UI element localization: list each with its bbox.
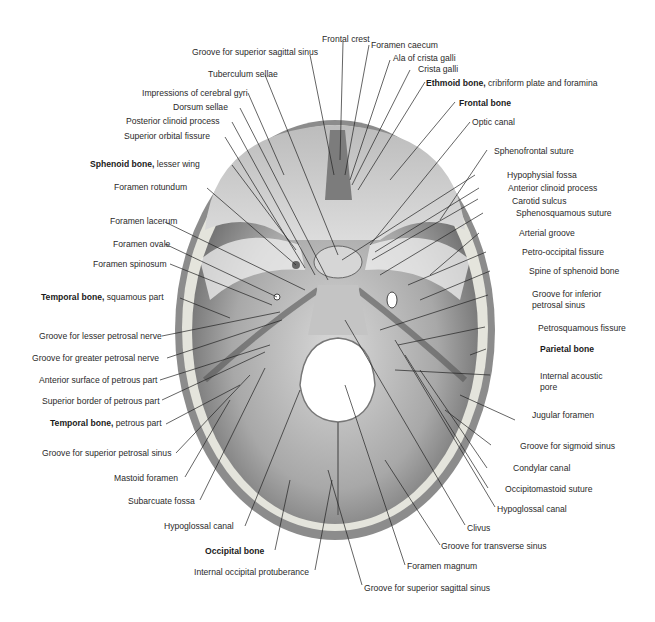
label-groove-inferior-petrosal: Groove for inferior	[532, 289, 601, 299]
label-hypophysial-fossa: Hypophysial fossa	[507, 170, 577, 180]
label-frontal-bone: Frontal bone	[459, 98, 511, 108]
label-ala-crista-galli: Ala of crista galli	[393, 53, 456, 63]
label-subarcuate-fossa: Subarcuate fossa	[128, 496, 195, 506]
label-sphenofrontal-suture: Sphenofrontal suture	[494, 146, 574, 156]
label-internal-acoustic-pore: Internal acoustic	[540, 371, 603, 381]
label-temporal-squamous: Temporal bone, squamous part	[41, 292, 164, 302]
label-groove-superior-petrosal: Groove for superior petrosal sinus	[42, 448, 171, 458]
label-foramen-ovale: Foramen ovale	[113, 239, 170, 249]
internal-acoustic-pore-mark	[387, 292, 397, 308]
label-foramen-magnum: Foramen magnum	[407, 561, 477, 571]
label-foramen-lacerum: Foramen lacerum	[110, 216, 177, 226]
label-petro-occipital-fissure: Petro-occipital fissure	[522, 247, 604, 257]
bold-part: Frontal bone	[459, 98, 511, 108]
label-foramen-rotundum: Foramen rotundum	[114, 182, 187, 192]
clivus	[308, 285, 368, 335]
foramen-magnum-opening	[300, 338, 375, 422]
label-impressions-cerebral-gyri: Impressions of cerebral gyri	[142, 88, 248, 98]
label-dorsum-sellae: Dorsum sellae	[173, 102, 228, 112]
label-text: cribriform plate and foramina	[486, 78, 598, 88]
label-sphenosquamous-suture: Sphenosquamous suture	[516, 208, 612, 218]
label-optic-canal: Optic canal	[472, 117, 515, 127]
label-groove-greater-petrosal: Groove for greater petrosal nerve	[32, 353, 159, 363]
label-groove-superior-sagittal-sinus-bottom: Groove for superior sagittal sinus	[364, 583, 490, 593]
label-spine-sphenoid: Spine of sphenoid bone	[529, 266, 619, 276]
bold-part: Sphenoid bone,	[90, 159, 154, 169]
label-anterior-surface-petrous: Anterior surface of petrous part	[39, 375, 157, 385]
sella-turcica	[314, 246, 362, 278]
label-mastoid-foramen: Mastoid foramen	[114, 473, 178, 483]
label-superior-orbital-fissure: Superior orbital fissure	[124, 131, 210, 141]
label-internal-occipital-protuberance: Internal occipital protuberance	[194, 567, 309, 577]
label-condylar-canal: Condylar canal	[513, 463, 570, 473]
label-tuberculum-sellae: Tuberculum sellae	[208, 69, 278, 79]
label-sphenoid-lesser-wing: Sphenoid bone, lesser wing	[90, 159, 200, 169]
label-groove-transverse-sinus: Groove for transverse sinus	[441, 541, 547, 551]
label-arterial-groove: Arterial groove	[519, 228, 575, 238]
label-hypoglossal-canal-left: Hypoglossal canal	[164, 521, 234, 531]
label-ethmoid-cribriform: Ethmoid bone, cribriform plate and foram…	[426, 78, 597, 88]
label-parietal-bone: Parietal bone	[540, 344, 594, 354]
bold-part: Parietal bone	[540, 344, 594, 354]
label-anterior-clinoid-process: Anterior clinoid process	[508, 183, 597, 193]
bold-part: Occipital bone	[205, 546, 264, 556]
bold-part: Ethmoid bone,	[426, 78, 486, 88]
label-occipital-bone: Occipital bone	[205, 546, 264, 556]
label-foramen-caecum: Foramen caecum	[371, 40, 438, 50]
label-occipitomastoid-suture: Occipitomastoid suture	[505, 484, 592, 494]
label-groove-lesser-petrosal: Groove for lesser petrosal nerve	[39, 331, 162, 341]
label-hypoglossal-canal-right: Hypoglossal canal	[497, 504, 567, 514]
label-petrosquamous-fissure: Petrosquamous fissure	[538, 323, 626, 333]
label-text: petrous part	[113, 418, 161, 428]
cranial-base-illustration	[0, 0, 655, 622]
bold-part: Temporal bone,	[41, 292, 104, 302]
label-groove-sigmoid-sinus: Groove for sigmoid sinus	[520, 441, 615, 451]
label-internal-acoustic-pore-line2: pore	[540, 382, 557, 392]
label-jugular-foramen: Jugular foramen	[532, 410, 594, 420]
label-groove-inferior-petrosal-line2: petrosal sinus	[532, 300, 585, 310]
label-groove-superior-sagittal-sinus-top: Groove for superior sagittal sinus	[192, 47, 318, 57]
label-clivus: Clivus	[467, 523, 490, 533]
label-text: lesser wing	[154, 159, 199, 169]
label-superior-border-petrous: Superior border of petrous part	[42, 396, 160, 406]
label-temporal-petrous: Temporal bone, petrous part	[50, 418, 162, 428]
label-crista-galli: Crista galli	[418, 64, 458, 74]
label-text: squamous part	[104, 292, 163, 302]
label-carotid-sulcus: Carotid sulcus	[512, 196, 566, 206]
bold-part: Temporal bone,	[50, 418, 113, 428]
label-foramen-spinosum: Foramen spinosum	[93, 259, 167, 269]
label-frontal-crest: Frontal crest	[322, 34, 370, 44]
label-posterior-clinoid-process: Posterior clinoid process	[126, 116, 220, 126]
